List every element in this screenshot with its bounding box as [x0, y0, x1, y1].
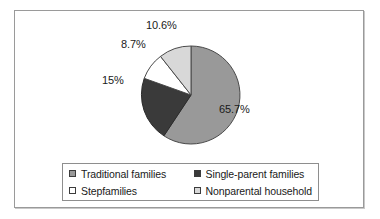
pie-label-traditional-families: 65.7%	[219, 103, 250, 115]
legend-swatch-icon-traditional-families	[69, 170, 76, 177]
legend-swatch-icon-nonparental-household	[194, 187, 201, 194]
pie-chart-plot-area: 10.6% 8.7% 15% 65.7% Traditional familie…	[15, 11, 365, 209]
chart-figure: 10.6% 8.7% 15% 65.7% Traditional familie…	[14, 10, 364, 208]
legend-item-single-parent-families[interactable]: Single-parent families	[194, 168, 319, 180]
pie-label-single-parent-families: 15%	[102, 74, 124, 86]
legend-label-traditional-families: Traditional families	[81, 168, 166, 180]
pie-label-nonparental-household: 10.6%	[146, 19, 177, 31]
legend-item-nonparental-household[interactable]: Nonparental household	[194, 185, 319, 197]
legend-label-nonparental-household: Nonparental household	[206, 185, 312, 197]
legend-label-single-parent-families: Single-parent families	[206, 168, 305, 180]
legend-item-stepfamilies[interactable]: Stepfamilies	[69, 185, 194, 197]
legend-label-stepfamilies: Stepfamilies	[81, 185, 137, 197]
legend-swatch-icon-stepfamilies	[69, 187, 76, 194]
pie-label-stepfamilies: 8.7%	[121, 38, 146, 50]
chart-legend: Traditional families Single-parent famil…	[62, 163, 319, 201]
legend-swatch-icon-single-parent-families	[194, 170, 201, 177]
legend-item-traditional-families[interactable]: Traditional families	[69, 168, 194, 180]
